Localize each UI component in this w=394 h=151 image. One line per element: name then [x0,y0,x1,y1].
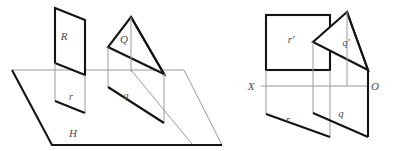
horizontal-trace-r-line [266,114,330,137]
label-axis-x: X [247,80,256,92]
trace-q-line [108,87,164,123]
label-frontal-q-prime: q' [342,37,350,48]
label-trace-q: q [124,90,129,101]
projection-figure: R r Q q H [0,0,394,151]
label-plane-q: Q [120,33,128,45]
label-axis-o: O [371,80,379,92]
plane-h-dark-edges [12,70,222,145]
trace-r-line [55,101,85,113]
plane-h-light-edges [12,70,222,145]
figure-canvas: R r Q q H [0,0,394,151]
label-trace-r: r [69,91,73,102]
label-horizontal-q: q [339,108,344,119]
label-horizontal-r: r [286,114,290,125]
label-plane-h: H [68,127,78,139]
right-orthographic-panel: r' q' r q X O [247,12,379,137]
label-frontal-r-prime: r' [288,33,295,45]
label-plane-r: R [60,30,68,42]
plane-r-quad [55,8,85,75]
left-pictorial-panel: R r Q q H [12,8,222,145]
